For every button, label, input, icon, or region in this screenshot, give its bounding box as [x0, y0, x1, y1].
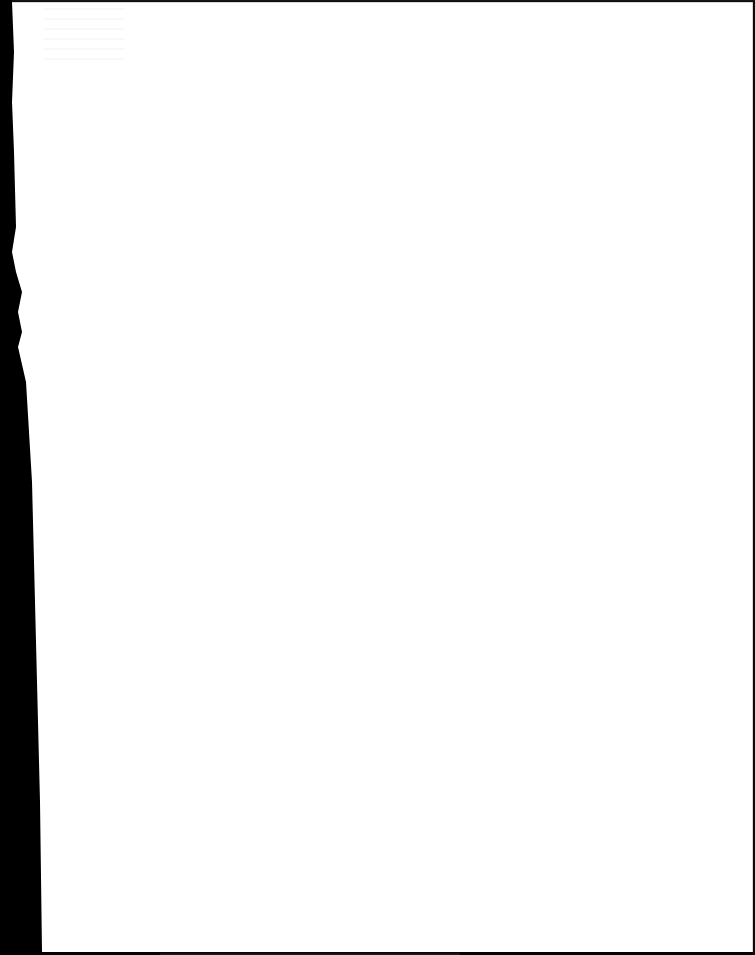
paper-sheet [12, 2, 753, 952]
bleed-through-marks [44, 8, 124, 63]
page-body [72, 62, 712, 892]
top-edge-shadow [12, 0, 755, 3]
scanned-page [0, 0, 755, 955]
